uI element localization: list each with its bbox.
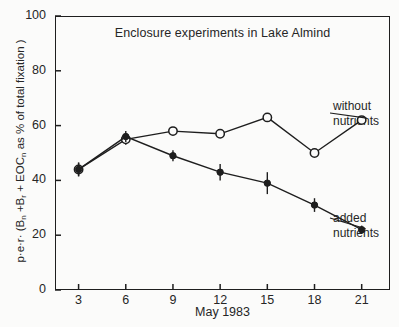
- series-label-added-nutrients-line2: nutrients: [333, 226, 379, 241]
- plot-frame: [55, 16, 390, 290]
- series-label-without-nutrients-line2: nutrients: [333, 114, 379, 129]
- x-tick-label-3: 3: [64, 294, 94, 307]
- x-tick-label-6: 6: [111, 294, 141, 307]
- x-tick-label-18: 18: [300, 294, 330, 307]
- series-label-without-nutrients: without nutrients: [333, 99, 379, 128]
- series-label-added-nutrients: added nutrients: [333, 211, 379, 240]
- x-tick-label-21: 21: [347, 294, 377, 307]
- y-axis-label-sub-n2: n: [19, 153, 28, 157]
- chart-title: Enclosure experiments in Lake Almind: [55, 26, 390, 40]
- y-tick-label-60: 60: [8, 119, 46, 132]
- y-axis-label-suffix: as % of total fixation ): [14, 39, 26, 152]
- y-tick-label-80: 80: [8, 64, 46, 77]
- y-tick-label-20: 20: [8, 228, 46, 241]
- y-axis-label-mid1: +B: [14, 198, 26, 216]
- y-tick-label-0: 0: [8, 283, 46, 296]
- y-axis-label-sub-r: r: [19, 195, 28, 198]
- y-axis-label: p·e·r· (Bn +Br + EOCn as % of total fixa…: [14, 6, 26, 296]
- x-tick-label-15: 15: [252, 294, 282, 307]
- x-tick-label-12: 12: [205, 294, 235, 307]
- x-tick-label-9: 9: [158, 294, 188, 307]
- y-tick-label-40: 40: [8, 173, 46, 186]
- series-label-without-nutrients-line1: without: [333, 99, 379, 114]
- x-axis-label: May 1983: [55, 305, 390, 319]
- y-axis-label-sub-n1: n: [19, 215, 28, 219]
- series-label-added-nutrients-line1: added: [333, 211, 379, 226]
- y-tick-label-100: 100: [8, 9, 46, 22]
- chart-figure: Enclosure experiments in Lake Almind p·e…: [0, 0, 399, 327]
